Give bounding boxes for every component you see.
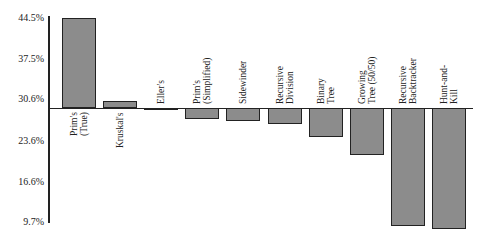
category-label: Prim's (Simplified) xyxy=(192,58,212,104)
category-label: Recursive Backtracker xyxy=(398,58,418,104)
bar xyxy=(268,108,302,124)
category-label: Sidewinder xyxy=(238,61,248,104)
y-tick-label: 44.5% xyxy=(0,12,44,23)
category-label: Prim's (True) xyxy=(69,112,89,136)
y-tick-label: 9.7% xyxy=(0,216,44,227)
category-label: Recursive Division xyxy=(275,66,295,104)
bar xyxy=(309,108,343,137)
y-tick-label: 23.6% xyxy=(0,135,44,146)
bar xyxy=(391,108,425,226)
bar xyxy=(350,108,384,155)
y-axis xyxy=(48,16,50,223)
bar xyxy=(226,108,260,121)
y-tick-label: 30.6% xyxy=(0,93,44,104)
bar xyxy=(103,101,137,108)
bar xyxy=(62,18,96,108)
y-tick-label: 16.6% xyxy=(0,176,44,187)
category-label: Eller's xyxy=(156,80,166,104)
bar xyxy=(432,108,466,229)
category-label: Kruskal's xyxy=(115,113,125,149)
bar xyxy=(185,108,219,119)
category-label: Hunt-and- Kill xyxy=(439,65,459,104)
bar-chart: 44.5%37.5%30.6%23.6%16.6%9.7%Prim's (Tru… xyxy=(0,0,497,242)
bar xyxy=(144,108,178,110)
category-label: Binary Tree xyxy=(316,78,336,104)
y-tick-label: 37.5% xyxy=(0,53,44,64)
category-label: Growing Tree (50/50) xyxy=(357,57,377,104)
